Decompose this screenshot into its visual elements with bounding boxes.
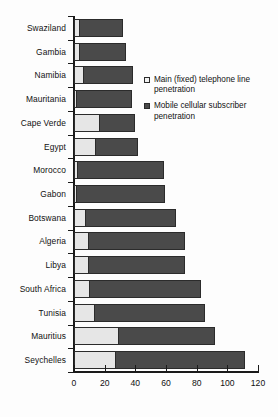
bar-segment-fixed: [75, 115, 100, 131]
bar-segment-mobile: [83, 67, 132, 83]
stacked-bar: [74, 19, 123, 37]
bar-segment-mobile: [88, 257, 185, 273]
bar-row: Mauritius: [0, 325, 278, 349]
bar-segment-fixed: [75, 257, 89, 273]
x-axis-tick-label: 40: [131, 378, 141, 388]
stacked-bar: [74, 304, 205, 322]
category-label: Swaziland: [27, 23, 66, 33]
stacked-bar: [74, 114, 135, 132]
bar-row: Libya: [0, 253, 278, 277]
x-axis-tick-label: 80: [192, 378, 202, 388]
legend-label-mobile: Mobile cellular subscriber penetration: [154, 101, 270, 121]
legend-entry-mobile: Mobile cellular subscriber penetration: [144, 101, 270, 121]
bar-row: Tunisia: [0, 301, 278, 325]
bar-row: Egypt: [0, 135, 278, 159]
filled-square-marker-icon: [144, 103, 150, 109]
bar-segment-mobile: [76, 91, 131, 107]
bar-segment-mobile: [76, 186, 165, 202]
legend-label-fixed: Main (fixed) telephone line penetration: [154, 75, 270, 95]
category-label: Tunisia: [39, 308, 66, 318]
x-axis-tick-label: 0: [72, 378, 77, 388]
bar-segment-mobile: [85, 210, 175, 226]
x-axis-tick-label: 60: [161, 378, 171, 388]
x-axis-tick-label: 20: [100, 378, 110, 388]
stacked-bar: [74, 138, 138, 156]
stacked-bar: [74, 280, 201, 298]
bar-row: South Africa: [0, 277, 278, 301]
category-label: Morocco: [33, 165, 66, 175]
x-axis-tick-label: 100: [220, 378, 234, 388]
category-label: Namibia: [35, 70, 66, 80]
category-label: Mauritius: [31, 331, 66, 341]
chart-legend: Main (fixed) telephone line penetration …: [144, 75, 270, 128]
bar-segment-mobile: [77, 162, 163, 178]
bar-row: Botswana: [0, 206, 278, 230]
bar-row: Morocco: [0, 158, 278, 182]
bar-segment-mobile: [79, 20, 122, 36]
bar-segment-fixed: [75, 352, 116, 368]
bar-segment-fixed: [75, 328, 119, 344]
bar-segment-mobile: [89, 281, 199, 297]
bar-row: Seychelles: [0, 348, 278, 372]
stacked-bar: [74, 327, 215, 345]
category-label: South Africa: [20, 284, 66, 294]
stacked-bar: [74, 161, 164, 179]
bar-segment-mobile: [115, 352, 244, 368]
y-axis-tick: [68, 372, 74, 373]
stacked-bar: [74, 90, 132, 108]
bar-segment-mobile: [118, 328, 213, 344]
category-label: Botswana: [28, 213, 66, 223]
category-label: Algeria: [39, 236, 66, 246]
bar-segment-mobile: [79, 44, 125, 60]
bar-segment-fixed: [75, 305, 95, 321]
bar-segment-mobile: [95, 139, 136, 155]
bar-segment-mobile: [88, 233, 185, 249]
stacked-bar: [74, 43, 126, 61]
stacked-bar-chart: SwazilandGambiaNamibiaMauritaniaCape Ver…: [0, 0, 278, 417]
category-label: Gambia: [36, 47, 66, 57]
category-label: Egypt: [44, 142, 66, 152]
category-label: Mauritania: [26, 94, 66, 104]
bar-row: Gabon: [0, 182, 278, 206]
stacked-bar: [74, 351, 245, 369]
bar-segment-mobile: [94, 305, 204, 321]
category-label: Cape Verde: [21, 118, 66, 128]
open-square-marker-icon: [144, 77, 150, 83]
bar-segment-fixed: [75, 281, 90, 297]
stacked-bar: [74, 209, 176, 227]
bar-row: Algeria: [0, 230, 278, 254]
bar-rows: SwazilandGambiaNamibiaMauritaniaCape Ver…: [0, 16, 278, 372]
bar-row: Swaziland: [0, 16, 278, 40]
bar-row: Gambia: [0, 40, 278, 64]
category-label: Seychelles: [24, 355, 66, 365]
x-axis-tick-label: 120: [251, 378, 265, 388]
category-label: Gabon: [40, 189, 66, 199]
legend-entry-fixed: Main (fixed) telephone line penetration: [144, 75, 270, 95]
stacked-bar: [74, 256, 185, 274]
stacked-bar: [74, 66, 133, 84]
stacked-bar: [74, 232, 185, 250]
category-label: Libya: [45, 260, 66, 270]
bar-segment-fixed: [75, 139, 96, 155]
stacked-bar: [74, 185, 165, 203]
bar-segment-fixed: [75, 233, 89, 249]
bar-segment-mobile: [99, 115, 134, 131]
